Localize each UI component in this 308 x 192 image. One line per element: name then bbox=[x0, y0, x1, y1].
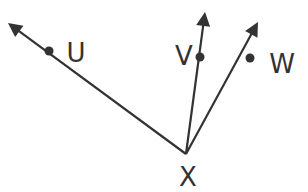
point-label-v: V bbox=[175, 41, 193, 71]
point-u-dot bbox=[45, 47, 54, 56]
point-label-w: W bbox=[269, 49, 295, 79]
point-v-dot bbox=[196, 53, 205, 62]
point-label-u: U bbox=[66, 38, 85, 68]
arrowhead-icon bbox=[8, 23, 23, 37]
ray-xu bbox=[18, 30, 186, 154]
arrowhead-icon bbox=[196, 12, 210, 27]
angle-diagram: UVW X bbox=[0, 0, 308, 192]
rays-group: UVW bbox=[8, 12, 295, 154]
vertex-label-x: X bbox=[179, 162, 197, 192]
ray-xw bbox=[186, 33, 252, 154]
point-w-dot bbox=[246, 54, 255, 63]
